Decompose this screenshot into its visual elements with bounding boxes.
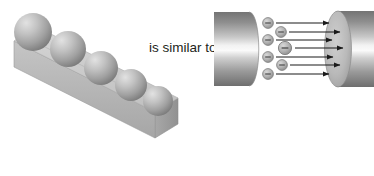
sphere-5 xyxy=(143,86,173,116)
right-cylinder xyxy=(325,11,374,87)
left-cylinder-body xyxy=(214,12,259,86)
similarity-analogy-figure: is similar to xyxy=(0,0,374,176)
electron-group xyxy=(263,18,292,80)
ball-and-bar-model xyxy=(14,13,178,138)
left-cylinder xyxy=(214,12,259,86)
right-cylinder-face xyxy=(325,11,352,87)
sphere-4 xyxy=(115,69,147,101)
sphere-2 xyxy=(50,31,86,67)
figure-canvas: is similar to xyxy=(0,0,374,176)
caption-is-similar-to: is similar to xyxy=(149,40,217,55)
electron-2 xyxy=(276,27,287,38)
electron-6 xyxy=(277,60,288,71)
electron-1 xyxy=(263,18,274,29)
electron-4 xyxy=(278,41,291,54)
electron-7 xyxy=(263,69,274,80)
sphere-1 xyxy=(14,13,52,51)
electron-3 xyxy=(263,35,274,46)
sphere-3 xyxy=(84,51,118,85)
electron-5 xyxy=(263,52,274,63)
electron-transfer-diagram xyxy=(214,11,374,87)
